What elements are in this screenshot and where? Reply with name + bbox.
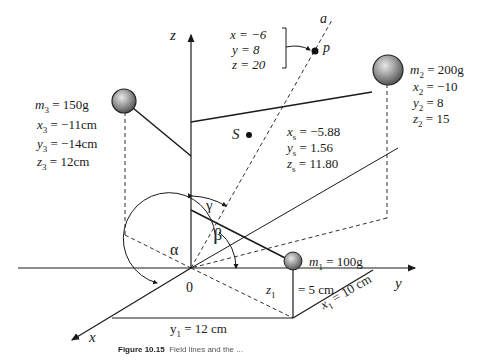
a-axis-label: a <box>320 12 327 26</box>
alpha-label: α <box>170 243 178 257</box>
figure-caption: Figure 10.15 Field lines and the ... <box>118 345 243 354</box>
centroid-label: S <box>232 127 240 141</box>
beta-label: β <box>214 228 222 242</box>
y-axis-label: y <box>395 276 402 290</box>
origin-label: 0 <box>186 281 193 295</box>
mass-3-ball <box>112 89 136 113</box>
x-axis-label: x <box>89 330 96 344</box>
alpha-arc <box>123 193 215 283</box>
point-p-label: p <box>323 41 330 55</box>
mass-1-ball <box>284 252 302 270</box>
gamma-label: γ <box>206 198 213 212</box>
z-axis-label: z <box>170 28 176 42</box>
centroid-dot <box>246 132 252 138</box>
point-p-dot <box>312 48 319 55</box>
mass-2-ball <box>373 55 403 85</box>
